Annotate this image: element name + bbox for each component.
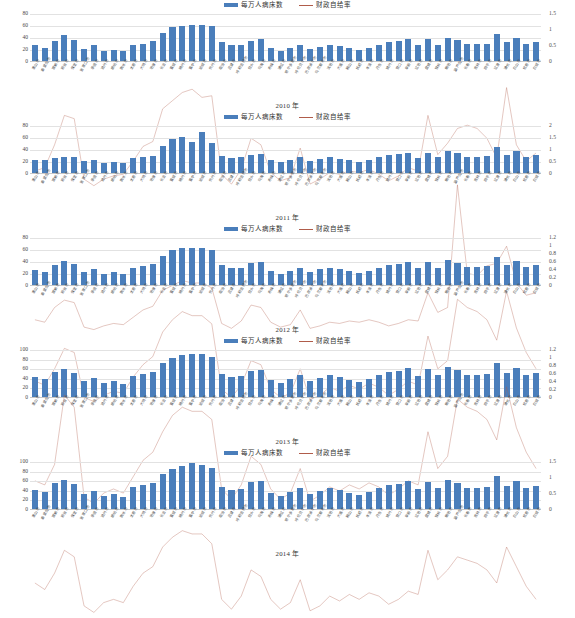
x-label-cell: 大同市 [138,175,148,203]
x-label-cell: 大连市 [335,63,345,91]
x-label-cell: 铁岭市 [433,175,443,203]
y-tick-right: 0 [549,283,552,289]
x-label-cell: 张家口市 [79,63,89,91]
x-label-cell: 吉林市 [472,63,482,91]
legend-swatch-line-icon [299,453,313,454]
x-label-cell: 临汾市 [217,511,227,539]
x-label-cell: 衡水市 [118,287,128,315]
x-label-cell: 大连市 [335,511,345,539]
y-axis-left: 806040200 [6,238,28,286]
x-label-cell: 晋中市 [187,63,197,91]
x-label-cell: 白城市 [531,287,541,315]
x-label-cell: 秦皇岛市 [40,175,50,203]
x-label-cell: 鞍山市 [345,175,355,203]
x-label-cell: 长治市 [158,287,168,315]
legend-item-line: 财政自给率 [299,338,351,345]
x-label-cell: 松原市 [521,511,531,539]
x-label-cell: 阜新市 [403,511,413,539]
x-label-cell: 丹东市 [374,287,384,315]
x-label-cell: 丹东市 [374,175,384,203]
x-label-cell: 大连市 [335,399,345,427]
x-label-cell: 白城市 [531,511,541,539]
x-label-cell: 长治市 [158,399,168,427]
y-tick-right: 0.8 [549,251,556,257]
y-axis-left: 100806040200 [6,462,28,510]
x-label-cell: 锦州市 [384,511,394,539]
x-label-cell: 白山市 [512,63,522,91]
y-tick-left: 80 [22,235,28,241]
y-tick-right: 1.5 [549,135,556,141]
x-label-cell: 晋中市 [187,175,197,203]
x-label-cell: 朝阳市 [443,175,453,203]
legend-item-bar: 每万人病床数 [224,338,283,345]
x-label-cell: 唐山市 [30,399,40,427]
x-label-cell: 赤峰市 [266,175,276,203]
x-label-cell: 本溪市 [364,511,374,539]
x-label-cell: 盘锦市 [423,399,433,427]
x-label-cell: 吕梁市 [227,175,237,203]
x-label-cell: 赤峰市 [266,287,276,315]
x-label-cell: 抚顺市 [354,287,364,315]
x-label-cell: 抚顺市 [354,63,364,91]
x-label-cell: 松原市 [521,399,531,427]
y-tick-right: 1.5 [549,11,556,17]
x-label-cell: 运城市 [197,399,207,427]
x-label-cell: 秦皇岛市 [40,63,50,91]
x-axis-labels: 唐山市秦皇岛市邯郸市邢台市保定市张家口市承德市沧州市廊坊市衡水市太原市大同市阳泉… [30,175,541,203]
chart-legend: 每万人病床数财政自给率 [0,114,575,121]
x-label-cell: 保定市 [69,399,79,427]
x-label-cell: 营口市 [394,511,404,539]
y-tick-right: 1.5 [549,459,556,465]
x-label-cell: 沧州市 [99,511,109,539]
x-label-cell: 丹东市 [374,63,384,91]
x-label-cell: 铁岭市 [433,287,443,315]
x-label-cell: 长治市 [158,175,168,203]
x-label-cell: 乌海市 [256,287,266,315]
x-label-cell: 阳泉市 [148,63,158,91]
plot-canvas [30,350,541,398]
legend-label-bar: 每万人病床数 [241,114,283,121]
x-label-cell: 保定市 [69,287,79,315]
y-tick-right: 0.4 [549,267,556,273]
x-label-cell: 大同市 [138,63,148,91]
x-label-cell: 四平市 [482,287,492,315]
x-label-cell: 松原市 [521,287,531,315]
x-label-cell: 长治市 [158,63,168,91]
x-label-cell: 通化市 [502,511,512,539]
y-tick-right: 1 [549,27,552,33]
x-label-cell: 晋中市 [187,511,197,539]
x-label-cell: 吉林市 [472,175,482,203]
x-label-cell: 衡水市 [118,63,128,91]
x-label-cell: 本溪市 [364,287,374,315]
x-label-cell: 秦皇岛市 [40,287,50,315]
x-label-cell: 吉林市 [472,399,482,427]
x-label-cell: 阜新市 [403,287,413,315]
x-label-cell: 包头市 [246,175,256,203]
plot-canvas [30,126,541,174]
legend-label-bar: 每万人病床数 [241,226,283,233]
x-label-cell: 运城市 [197,511,207,539]
x-label-cell: 呼和浩特市 [236,63,246,91]
x-label-cell: 呼和浩特市 [236,287,246,315]
x-label-cell: 运城市 [197,175,207,203]
x-label-cell: 长春市 [462,511,472,539]
y-tick-left: 0 [25,395,28,401]
y-tick-left: 100 [20,459,28,465]
x-label-cell: 秦皇岛市 [40,511,50,539]
plot-canvas [30,14,541,62]
x-label-cell: 临汾市 [217,399,227,427]
x-label-cell: 盘锦市 [423,63,433,91]
x-label-cell: 晋城市 [168,175,178,203]
y-tick-right: 1 [549,147,552,153]
x-label-cell: 沧州市 [99,287,109,315]
x-label-cell: 营口市 [394,287,404,315]
y-tick-left: 80 [22,11,28,17]
y-tick-left: 80 [22,123,28,129]
x-label-cell: 朝阳市 [443,287,453,315]
x-label-cell: 张家口市 [79,399,89,427]
x-label-cell: 赤峰市 [266,511,276,539]
line-series [30,462,541,618]
x-label-cell: 朝阳市 [443,399,453,427]
x-label-cell: 通辽市 [276,175,286,203]
